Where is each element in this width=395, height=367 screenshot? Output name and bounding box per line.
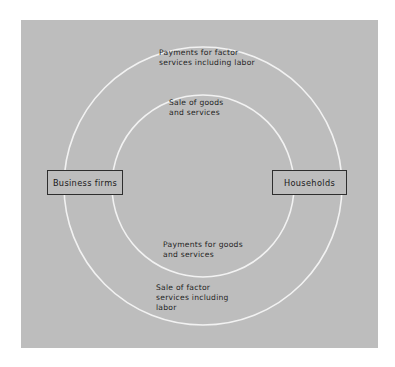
entity-box-business-firms: Business firms	[47, 170, 123, 195]
circular-flow-diagram: Business firms Households Payments for f…	[0, 0, 395, 367]
flow-label-payments-factor-services: Payments for factor services including l…	[159, 48, 255, 68]
flow-label-sale-factor-services: Sale of factor services including labor	[156, 283, 229, 314]
entity-label-business-firms: Business firms	[53, 178, 117, 188]
flow-label-sale-goods-services: Sale of goods and services	[169, 98, 224, 118]
flow-label-payments-goods-services: Payments for goods and services	[163, 240, 243, 260]
entity-box-households: Households	[272, 170, 347, 195]
entity-label-households: Households	[284, 178, 335, 188]
